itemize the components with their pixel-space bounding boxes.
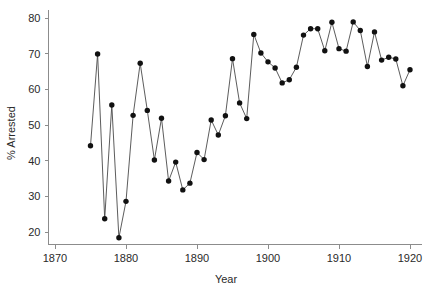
data-point [386,55,391,60]
data-point [343,48,348,53]
data-point [152,157,157,162]
data-point [201,157,206,162]
data-point [301,32,306,37]
x-tick-label: 1900 [256,252,280,264]
y-axis-title: % Arrested [5,106,17,160]
data-point [329,20,334,25]
data-point [116,235,121,240]
series-line-arrested [91,22,411,238]
data-point [372,29,377,34]
x-tick-label: 1870 [43,252,67,264]
data-point [365,64,370,69]
data-point [138,61,143,66]
data-point [272,65,277,70]
data-point [95,51,100,56]
data-point [230,56,235,61]
data-point [407,67,412,72]
y-tick-label: 30 [28,190,40,202]
data-point [287,77,292,82]
data-point [216,132,221,137]
data-point [223,113,228,118]
y-tick-label: 50 [28,119,40,131]
x-tick-label: 1910 [327,252,351,264]
x-tick-label: 1920 [398,252,422,264]
data-point [251,32,256,37]
data-point [336,46,341,51]
data-point [322,48,327,53]
y-tick-label: 20 [28,226,40,238]
x-tick-label: 1880 [114,252,138,264]
y-tick-label: 70 [28,48,40,60]
plot-area: 20304050607080 187018801890190019101920 … [0,0,436,298]
data-point [130,113,135,118]
data-point [88,143,93,148]
data-point [393,56,398,61]
data-point [244,116,249,121]
data-point [194,150,199,155]
data-point [173,159,178,164]
data-point [102,216,107,221]
data-point [159,116,164,121]
data-point [265,59,270,64]
x-axis-ticks: 187018801890190019101920 [43,245,422,264]
y-axis-ticks: 20304050607080 [28,12,48,238]
x-axis-title: Year [215,273,238,285]
data-point [237,100,242,105]
data-point [294,65,299,70]
data-point [123,199,128,204]
y-tick-label: 40 [28,155,40,167]
data-point [258,50,263,55]
y-tick-label: 80 [28,12,40,24]
data-point [308,26,313,31]
data-point [280,80,285,85]
data-point [358,28,363,33]
data-point [351,19,356,24]
data-point [379,57,384,62]
data-point [209,117,214,122]
data-point [180,187,185,192]
data-point [315,26,320,31]
x-tick-label: 1890 [185,252,209,264]
chart-figure: 20304050607080 187018801890190019101920 … [0,0,436,298]
series-markers [88,19,413,240]
data-point [145,108,150,113]
data-point [166,178,171,183]
y-tick-label: 60 [28,83,40,95]
data-point [109,102,114,107]
data-point [400,83,405,88]
data-point [187,180,192,185]
